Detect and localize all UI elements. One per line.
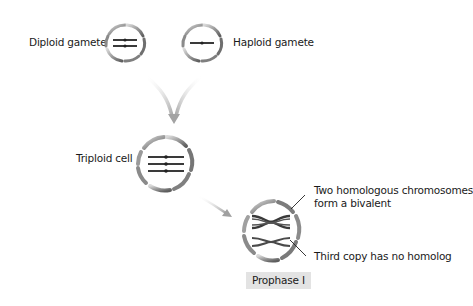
haploid-gamete-cell-icon bbox=[180, 22, 224, 64]
univalent-annotation: Third copy has no homolog bbox=[314, 250, 452, 263]
univalent-leader-line bbox=[288, 238, 312, 262]
bivalent-annotation-line1: Two homologous chromosomes bbox=[314, 184, 473, 197]
diploid-gamete-label: Diploid gamete bbox=[29, 36, 107, 49]
diploid-gamete-cell-icon bbox=[103, 22, 147, 64]
arrow-to-prophase-icon bbox=[196, 194, 236, 220]
bivalent-annotation-line2: form a bivalent bbox=[314, 197, 391, 210]
bivalent-leader-line bbox=[290, 192, 310, 212]
triploid-cell-label: Triploid cell bbox=[76, 152, 133, 165]
triploid-cell-icon bbox=[134, 134, 196, 194]
merge-arrow-icon bbox=[140, 70, 210, 130]
haploid-gamete-label: Haploid gamete bbox=[233, 36, 314, 49]
prophase-stage-label: Prophase I bbox=[246, 272, 311, 289]
